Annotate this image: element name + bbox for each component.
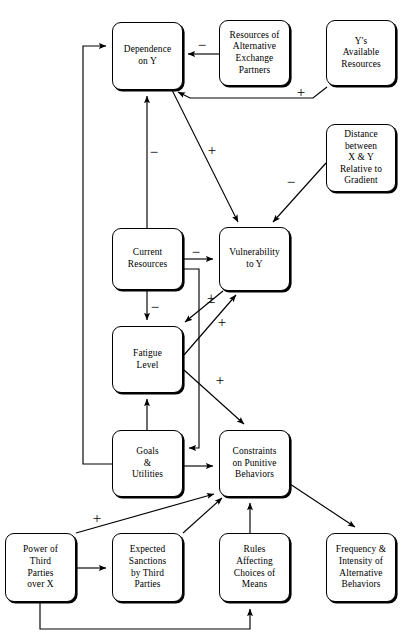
- node-label: Rules Affecting Choices of Means: [232, 544, 277, 590]
- node-label: Current Resources: [126, 247, 169, 270]
- edge-sign-e-currentresources-dependence: −: [150, 145, 158, 160]
- node-label: Y's Available Resources: [339, 36, 382, 71]
- edge-e-power-rules: [40, 602, 250, 629]
- edge-e-distance-vulnerability: [273, 163, 326, 222]
- node-label: Fatigue Level: [131, 348, 164, 371]
- node-dependence_on_y[interactable]: Dependence on Y: [112, 22, 183, 90]
- node-goals_utilities[interactable]: Goals & Utilities: [112, 430, 183, 497]
- node-label: Resources of Alternative Exchange Partne…: [228, 30, 282, 76]
- edge-sign-e-fatigue-constraints: +: [216, 373, 224, 388]
- node-vulnerability_to_y[interactable]: Vulnerability to Y: [219, 227, 290, 291]
- node-label: Frequency & Intensity of Alternative Beh…: [334, 544, 388, 590]
- node-fatigue_level[interactable]: Fatigue Level: [112, 326, 183, 393]
- edge-e-dependence-vulnerability: [172, 90, 238, 222]
- edge-e-currentresources-goals: [183, 269, 199, 448]
- edge-sign-e-ysresources-dependence: +: [297, 85, 305, 100]
- node-rules_affecting_choices[interactable]: Rules Affecting Choices of Means: [219, 533, 290, 602]
- edge-sign-e-altpartners-dependence: −: [198, 38, 206, 53]
- node-constraints_punitive[interactable]: Constraints on Punitive Behaviors: [219, 430, 290, 497]
- node-distance_x_y[interactable]: Distance between X & Y Relative to Gradi…: [326, 124, 396, 192]
- node-resources_alt_partners[interactable]: Resources of Alternative Exchange Partne…: [219, 20, 290, 86]
- node-label: Distance between X & Y Relative to Gradi…: [338, 129, 384, 187]
- node-label: Dependence on Y: [122, 44, 173, 67]
- edge-e-constraints-frequency: [290, 484, 355, 527]
- edge-sign-e-fatigue-vulnerability: +: [218, 315, 226, 330]
- node-power_third_parties[interactable]: Power of Third Parties over X: [5, 533, 76, 602]
- edge-sign-e-dependence-vulnerability: +: [208, 143, 216, 158]
- node-frequency_intensity[interactable]: Frequency & Intensity of Alternative Beh…: [326, 533, 396, 602]
- node-expected_sanctions[interactable]: Expected Sanctions by Third Parties: [112, 533, 183, 602]
- node-label: Constraints on Punitive Behaviors: [230, 446, 278, 481]
- edge-e-sanctions-constraints: [183, 498, 222, 533]
- edge-sign-e-distance-vulnerability: −: [287, 175, 295, 190]
- node-label: Expected Sanctions by Third Parties: [127, 544, 168, 590]
- edge-e-goals-dependence: [83, 46, 112, 464]
- node-label: Vulnerability to Y: [227, 247, 282, 270]
- node-label: Power of Third Parties over X: [21, 544, 60, 590]
- edge-e-fatigue-constraints: [184, 370, 244, 424]
- edge-sign-e-currentresources-vulnerability: −: [192, 245, 200, 260]
- node-label: Goals & Utilities: [130, 446, 165, 481]
- causal-diagram: Dependence on YResources of Alternative …: [0, 0, 416, 643]
- node-current_resources[interactable]: Current Resources: [112, 228, 183, 290]
- edge-sign-e-currentresources-fatigue: −: [151, 300, 159, 315]
- edge-sign-e-vulnerability-fatigue: ±: [207, 291, 215, 306]
- node-ys_available_resources[interactable]: Y's Available Resources: [326, 20, 396, 86]
- edge-sign-e-power-constraints: +: [93, 511, 101, 526]
